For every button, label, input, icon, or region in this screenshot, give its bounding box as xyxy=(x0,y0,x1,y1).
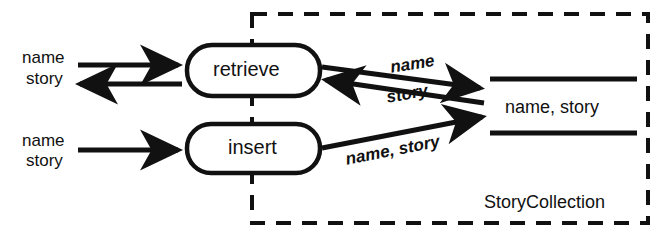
flow-label-insert-in-name: name xyxy=(22,131,65,151)
flow-label-retrieve-in: name xyxy=(22,48,65,68)
datastore-label: name, story xyxy=(505,97,599,118)
process-retrieve-label: retrieve xyxy=(213,58,280,81)
flow-label-insert-in-story: story xyxy=(26,151,63,171)
process-insert-label: insert xyxy=(228,136,277,159)
data-flow-diagram: retrieve insert name, story name story n… xyxy=(0,0,662,241)
flow-label-retrieve-out: story xyxy=(26,69,63,89)
boundary-label: StoryCollection xyxy=(484,192,605,213)
